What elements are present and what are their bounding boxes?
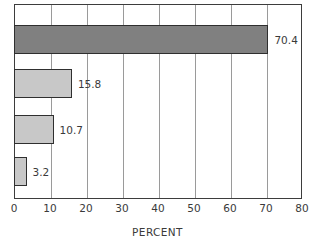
plot-area: 70.415.810.73.2 (14, 4, 302, 199)
x-axis-tick-label: 60 (223, 203, 236, 214)
bar (14, 115, 54, 144)
x-axis-tick-label: 70 (259, 203, 272, 214)
bar-series: 70.415.810.73.2 (15, 5, 301, 198)
bar-value-label: 15.8 (78, 79, 101, 90)
bar-value-label: 70.4 (274, 35, 297, 46)
x-axis-tick-label: 40 (151, 203, 164, 214)
x-axis-tick-label: 30 (115, 203, 128, 214)
x-axis-tick-label: 80 (295, 203, 308, 214)
bar (14, 157, 27, 186)
x-axis-tick-label: 0 (11, 203, 18, 214)
x-axis-tick-label: 50 (187, 203, 200, 214)
x-axis-title: PERCENT (0, 226, 315, 238)
bar-value-label: 10.7 (60, 125, 83, 136)
bar (14, 69, 72, 98)
bar (14, 25, 268, 54)
bar-chart: 70.415.810.73.2 01020304050607080 PERCEN… (0, 0, 315, 245)
x-axis-tick-label: 10 (43, 203, 56, 214)
x-axis-tick-label: 20 (79, 203, 92, 214)
bar-value-label: 3.2 (33, 167, 50, 178)
